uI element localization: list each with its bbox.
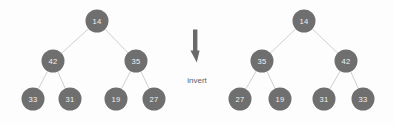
original-tree-nodes: 14423533311927 [22,10,166,111]
tree-edge [62,29,89,54]
tree-edge [121,71,130,89]
tree-edge [267,71,275,88]
tree-node-value: 31 [320,95,329,104]
diagram-canvas: 1442353331192714354227193133 invert [0,0,394,123]
tree-node: 27 [143,88,166,111]
tree-node: 35 [251,50,274,73]
tree-node: 33 [22,88,45,111]
tree-node-value: 35 [258,57,267,66]
nodes-layer: 1442353331192714354227193133 [22,10,375,111]
tree-node-value: 27 [236,95,245,104]
invert-arrow-icon [190,30,199,63]
tree-edge [351,72,359,89]
tree-edge [141,71,149,88]
tree-node-value: 33 [29,95,38,104]
inverted-tree-nodes: 14354227193133 [229,10,375,111]
tree-edge [330,71,340,89]
tree-edge [270,29,295,53]
tree-node-value: 35 [132,57,141,66]
tree-node: 14 [293,10,316,33]
invert-operation-label: invert [187,76,207,85]
tree-node: 14 [86,10,109,33]
invert-arrow-group: invert [187,30,207,85]
tree-node-value: 14 [300,17,309,26]
tree-node: 19 [269,88,292,111]
tree-node: 27 [229,88,252,111]
tree-edge [312,29,337,53]
tree-node-value: 33 [359,95,368,104]
tree-edge [246,71,256,89]
tree-edge [58,72,66,89]
tree-edge [105,29,128,53]
tree-node: 31 [59,88,82,111]
tree-node-value: 19 [276,95,285,104]
tree-node: 33 [352,88,375,111]
tree-node-value: 31 [66,95,75,104]
tree-node-value: 42 [342,57,351,66]
tree-edge [38,71,47,89]
tree-node-value: 19 [112,95,121,104]
tree-node: 19 [105,88,128,111]
tree-node: 42 [335,50,358,73]
tree-node-value: 27 [150,95,159,104]
tree-node: 35 [125,50,148,73]
tree-node-value: 42 [49,57,58,66]
tree-node: 31 [313,88,336,111]
tree-node: 42 [42,50,65,73]
tree-node-value: 14 [93,17,102,26]
invert-binary-tree-figure: 1442353331192714354227193133 invert [0,0,394,123]
